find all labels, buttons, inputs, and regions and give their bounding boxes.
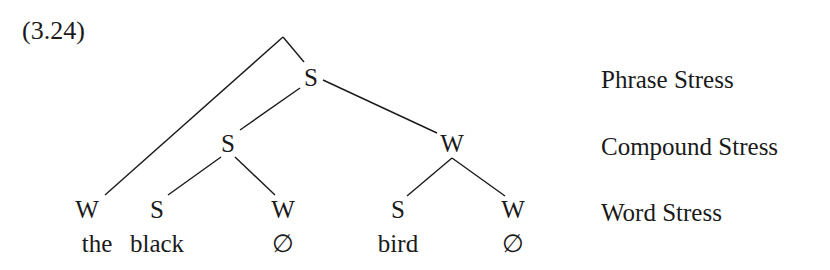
tree-node-word-w-the: W xyxy=(75,197,99,222)
tree-edge xyxy=(323,80,437,133)
stress-level-label: Compound Stress xyxy=(601,134,778,159)
tree-node-word-w-null1: W xyxy=(271,197,295,222)
tree-edge xyxy=(235,157,275,195)
stress-level-label: Phrase Stress xyxy=(601,67,734,92)
word-label: bird xyxy=(378,231,418,256)
word-label: ∅ xyxy=(502,231,524,256)
tree-node-compound-w: W xyxy=(440,131,464,156)
tree-node-compound-s: S xyxy=(221,131,235,156)
tree-edge xyxy=(168,157,221,195)
tree-node-word-w-null2: W xyxy=(501,197,525,222)
tree-edge xyxy=(452,158,505,196)
tree-edge xyxy=(105,37,283,195)
tree-node-word-s-black: S xyxy=(150,197,164,222)
tree-edge xyxy=(283,37,304,62)
tree-node-phrase-s: S xyxy=(304,65,318,90)
tree-node-word-s-bird: S xyxy=(391,197,405,222)
tree-edge xyxy=(407,158,452,196)
word-label: ∅ xyxy=(272,231,294,256)
tree-edge xyxy=(240,88,300,130)
stress-level-label: Word Stress xyxy=(601,200,722,225)
word-label: the xyxy=(82,231,113,256)
word-label: black xyxy=(130,231,184,256)
metrical-tree-diagram: (3.24) SSWWSWSW theblack∅bird∅ Phrase St… xyxy=(0,0,830,270)
